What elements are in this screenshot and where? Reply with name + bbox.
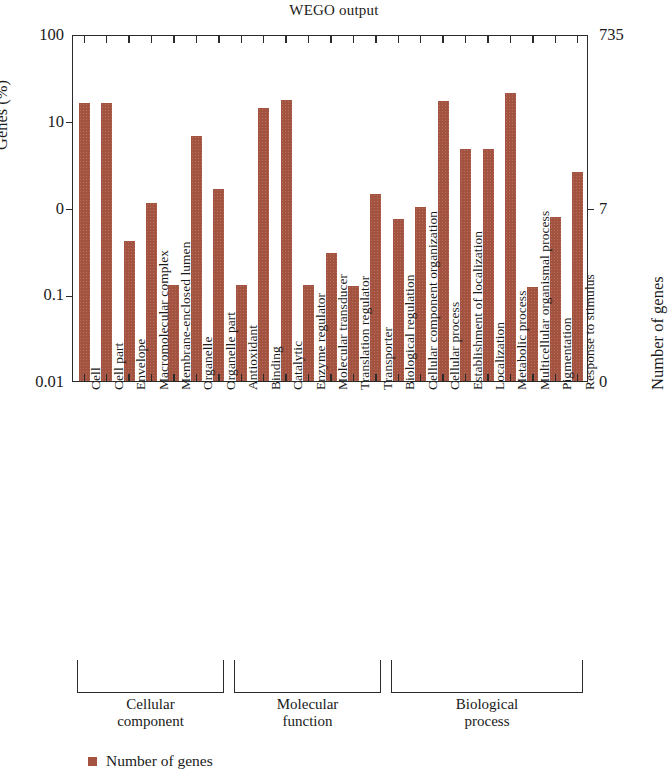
group-brackets: CellularcomponentMolecularfunctionBiolog… — [0, 0, 668, 779]
group-label: Molecularfunction — [234, 696, 381, 729]
group-bracket — [234, 660, 381, 693]
group-bracket — [391, 660, 582, 693]
legend-label: Number of genes — [106, 752, 213, 770]
legend-swatch-icon — [88, 757, 97, 766]
group-label: Cellularcomponent — [77, 696, 224, 729]
group-bracket — [77, 660, 224, 693]
legend: Number of genes — [88, 752, 213, 770]
group-label: Biologicalprocess — [391, 696, 582, 729]
